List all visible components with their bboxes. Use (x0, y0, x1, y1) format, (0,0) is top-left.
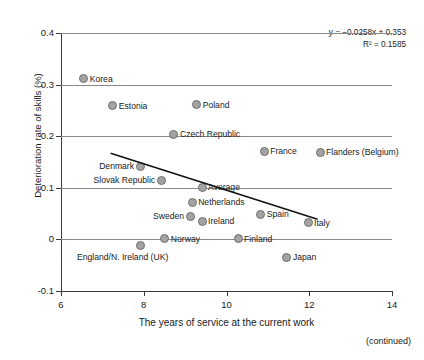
data-point-label: Poland (203, 101, 230, 110)
x-tick (227, 291, 228, 296)
data-point-marker[interactable] (169, 130, 178, 139)
data-point-marker[interactable] (260, 147, 269, 156)
y-tick (56, 85, 61, 86)
x-tick-label: 6 (46, 299, 76, 310)
y-tick (56, 33, 61, 34)
data-point-label: Czech Republic (180, 130, 240, 139)
data-point-marker[interactable] (304, 218, 313, 227)
plot-area: KoreaEstoniaPolandCzech RepublicFranceFl… (61, 33, 392, 291)
data-point-label: Average (208, 183, 240, 192)
data-point-label: Italy (314, 219, 330, 228)
gridline (61, 33, 392, 34)
data-point-marker[interactable] (198, 183, 207, 192)
x-tick-label: 12 (294, 299, 324, 310)
x-tick (392, 291, 393, 296)
y-tick (56, 136, 61, 137)
data-point-marker[interactable] (192, 100, 201, 109)
x-tick-label: 8 (129, 299, 159, 310)
scatter-plot-figure: y = −0.0258x + 0.353 R² = 0.1585 KoreaEs… (0, 0, 424, 360)
data-point-marker[interactable] (108, 101, 117, 110)
y-tick (56, 239, 61, 240)
gridline (61, 85, 392, 86)
data-point-label: Norway (171, 235, 200, 244)
data-point-marker[interactable] (79, 74, 88, 83)
data-point-label: Slovak Republic (94, 176, 156, 185)
data-point-marker[interactable] (157, 176, 166, 185)
gridline (61, 239, 392, 240)
continued-note: (continued) (366, 336, 411, 346)
data-point-label: Finland (244, 235, 272, 244)
data-point-marker[interactable] (256, 210, 265, 219)
data-point-label: Spain (267, 210, 289, 219)
data-point-marker[interactable] (316, 148, 325, 157)
data-point-label: Japan (293, 253, 316, 262)
data-point-marker[interactable] (234, 234, 243, 243)
data-point-marker[interactable] (282, 253, 291, 262)
data-point-marker[interactable] (136, 241, 145, 250)
x-tick (61, 291, 62, 296)
data-point-label: Estonia (119, 102, 148, 111)
y-axis-title: Deterioration rate of skills (%) (32, 36, 43, 236)
data-point-label: Ireland (208, 217, 234, 226)
data-point-marker[interactable] (136, 162, 145, 171)
data-point-marker[interactable] (186, 212, 195, 221)
x-axis-title: The years of service at the current work (61, 317, 392, 328)
x-tick-label: 10 (212, 299, 242, 310)
x-tick (309, 291, 310, 296)
data-point-marker[interactable] (198, 217, 207, 226)
data-point-label: Netherlands (198, 198, 244, 207)
x-tick-label: 14 (377, 299, 407, 310)
y-tick-label: -0.1 (10, 285, 54, 296)
data-point-label: Denmark (99, 162, 134, 171)
data-point-marker[interactable] (160, 234, 169, 243)
data-point-label: England/N. Ireland (UK) (77, 253, 168, 262)
y-tick (56, 188, 61, 189)
data-point-label: Flanders (Belgium) (326, 148, 399, 157)
data-point-label: France (270, 147, 297, 156)
data-point-label: Sweden (153, 212, 184, 221)
x-tick (144, 291, 145, 296)
data-point-label: Korea (90, 75, 113, 84)
data-point-marker[interactable] (188, 198, 197, 207)
